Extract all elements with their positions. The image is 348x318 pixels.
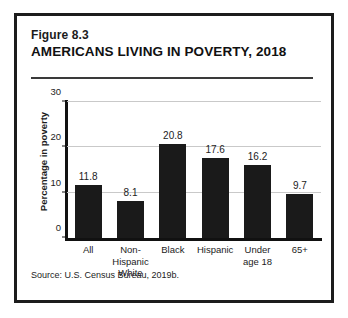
bar-chart: Percentage in poverty 0102030 11.8All8.1… (17, 88, 331, 273)
y-tick-label: 0 (56, 222, 61, 233)
gridline (67, 192, 321, 193)
y-tick-mark (62, 146, 66, 147)
bar-group: 8.1Non-HispanicWhite (117, 102, 144, 238)
x-axis-category-label: All (83, 244, 94, 256)
bar-value-label: 20.8 (163, 130, 182, 141)
bar (286, 194, 313, 238)
bar-value-label: 17.6 (205, 144, 224, 155)
source-note: Source: U.S. Census Bureau, 2019b. (31, 270, 179, 280)
bar-group: 17.6Hispanic (202, 102, 229, 238)
gridline (67, 101, 321, 102)
figure-number: Figure 8.3 (31, 28, 89, 42)
bar (159, 144, 186, 238)
plot-area: 0102030 11.8All8.1Non-HispanicWhite20.8B… (67, 102, 321, 238)
bar-value-label: 16.2 (248, 151, 267, 162)
x-axis-category-label: 65+ (292, 244, 308, 256)
bar-value-label: 8.1 (124, 187, 138, 198)
figure-inner: Figure 8.3 AMERICANS LIVING IN POVERTY, … (17, 16, 331, 300)
x-axis-category-label: Hispanic (197, 244, 233, 256)
bar-value-label: 11.8 (79, 171, 98, 182)
y-tick-mark (62, 237, 66, 238)
bar (75, 185, 102, 238)
y-tick-label: 20 (50, 131, 61, 142)
x-axis-line (65, 238, 322, 241)
bar (117, 201, 144, 238)
title-divider (31, 77, 313, 79)
bar (244, 165, 271, 238)
figure-box: Figure 8.3 AMERICANS LIVING IN POVERTY, … (14, 13, 334, 303)
y-tick-mark (62, 191, 66, 192)
gridline (67, 146, 321, 147)
y-tick-label: 30 (50, 86, 61, 97)
bar-group: 11.8All (75, 102, 102, 238)
bar-group: 16.2Underage 18 (244, 102, 271, 238)
bar-value-label: 9.7 (293, 180, 307, 191)
y-tick-label: 10 (50, 176, 61, 187)
figure-title: AMERICANS LIVING IN POVERTY, 2018 (31, 44, 286, 59)
x-axis-category-label: Underage 18 (243, 244, 272, 267)
bar-group: 9.765+ (286, 102, 313, 238)
bar (202, 158, 229, 238)
y-axis-line (65, 100, 68, 240)
bar-group: 20.8Black (159, 102, 186, 238)
x-axis-category-label: Black (161, 244, 184, 256)
y-axis-title: Percentage in poverty (38, 102, 49, 222)
y-tick-mark (62, 101, 66, 102)
